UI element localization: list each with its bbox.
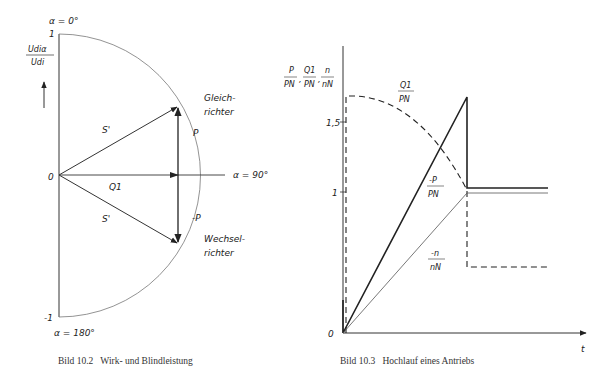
ylabel: P PN , Q1 PN , n nN bbox=[284, 66, 333, 89]
tick-label-0: 0 bbox=[328, 329, 334, 339]
tick-1-label: 1 bbox=[49, 29, 55, 39]
q1-curve bbox=[346, 96, 548, 333]
axis-label-numerator: Udiα bbox=[28, 45, 47, 54]
tick-minus-1-label: -1 bbox=[44, 313, 53, 323]
gleichrichter-label-1: Gleich- bbox=[204, 93, 235, 103]
p-curve bbox=[343, 97, 548, 333]
s-upper-label: S' bbox=[102, 125, 110, 135]
left-caption: Bild 10.2 Wirk- und Blindleistung bbox=[58, 356, 193, 366]
s-upper-vector bbox=[59, 107, 177, 175]
axis-label-denominator: Udi bbox=[31, 58, 45, 67]
s-lower-label: S' bbox=[102, 214, 110, 224]
left-diagram: Udiα Udi α = 0° 1 0 -1 α = 180° α = 90° … bbox=[26, 16, 268, 338]
right-caption: Bild 10.3 Hochlauf eines Antriebs bbox=[340, 356, 474, 366]
q1-label: Q1 bbox=[109, 182, 122, 192]
tick-0-label: 0 bbox=[48, 172, 54, 182]
alpha-0-label: α = 0° bbox=[49, 16, 78, 26]
figure-canvas: Udiα Udi α = 0° 1 0 -1 α = 180° α = 90° … bbox=[0, 0, 590, 373]
tick-label-1-5: 1,5 bbox=[326, 118, 341, 128]
p-lower-label: -P bbox=[192, 213, 201, 223]
right-diagram: P PN , Q1 PN , n nN 1,5 1 0 t Q1 PN -P P… bbox=[284, 46, 586, 354]
tick-label-1: 1 bbox=[332, 188, 338, 198]
wechselrichter-label-2: richter bbox=[204, 248, 235, 258]
p-curve-label-num: -P bbox=[429, 176, 437, 185]
p-upper-label: P bbox=[193, 128, 199, 138]
alpha-180-label: α = 180° bbox=[54, 328, 95, 338]
xlabel: t bbox=[581, 344, 585, 354]
p-curve-label-den: PN bbox=[428, 190, 439, 199]
n-curve-label-den: nN bbox=[430, 263, 441, 272]
q1-curve-label-den: PN bbox=[399, 95, 410, 104]
n-curve bbox=[343, 193, 548, 333]
alpha-90-label: α = 90° bbox=[233, 170, 268, 180]
wechselrichter-label-1: Wechsel- bbox=[204, 234, 245, 244]
n-curve-label-num: -n bbox=[431, 249, 439, 258]
left-semicircle bbox=[59, 34, 201, 317]
gleichrichter-label-2: richter bbox=[204, 107, 235, 117]
q1-curve-label-num: Q1 bbox=[400, 81, 411, 90]
